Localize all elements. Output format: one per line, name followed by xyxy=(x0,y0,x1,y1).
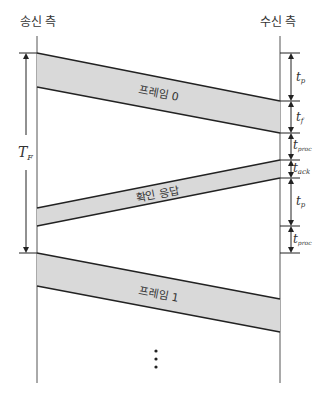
interval-tproc2-label: tproc xyxy=(293,232,312,247)
interval-tack-label: tack xyxy=(293,161,310,176)
receiver-label: 수신 측 xyxy=(260,15,297,29)
stop-and-wait-timing-diagram: 송신 측 수신 측 프레임 0 확인 응답 프레임 1 TF xyxy=(0,0,328,398)
continuation-dot xyxy=(154,349,157,352)
interval-tf-label: tf xyxy=(296,110,305,125)
continuation-dot xyxy=(154,365,157,368)
interval-tproc-label: tproc xyxy=(293,138,312,153)
interval-tp-label: tp xyxy=(296,70,306,85)
continuation-dot xyxy=(154,357,157,360)
sender-label: 송신 측 xyxy=(20,15,57,29)
tf-label: TF xyxy=(18,144,33,162)
interval-tp2-label: tp xyxy=(296,194,306,209)
